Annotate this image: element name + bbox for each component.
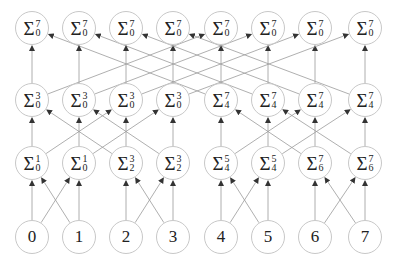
sum-range: 32	[177, 154, 182, 172]
sigma-icon: Σ	[306, 154, 317, 173]
range-lower: 0	[272, 28, 277, 37]
sigma-icon: Σ	[70, 91, 81, 110]
range-lower: 6	[319, 163, 324, 172]
sum-node: Σ74	[348, 83, 382, 117]
sum-range: 10	[83, 154, 88, 172]
sum-node: Σ70	[156, 11, 190, 45]
sum-range: 30	[177, 91, 182, 109]
sum-range: 10	[36, 154, 41, 172]
node-label: 7	[361, 227, 370, 247]
edge	[135, 178, 163, 222]
input-node: 5	[251, 220, 285, 254]
sum-node: Σ74	[251, 83, 285, 117]
sigma-icon: Σ	[117, 91, 128, 110]
range-lower: 0	[225, 28, 230, 37]
range-lower: 4	[272, 100, 277, 109]
edge	[136, 178, 164, 222]
sum-range: 32	[130, 154, 135, 172]
sum-range: 70	[369, 19, 374, 37]
sum-range: 74	[225, 91, 230, 109]
input-node: 3	[156, 220, 190, 254]
sum-range: 76	[319, 154, 324, 172]
sigma-icon: Σ	[212, 19, 223, 38]
sum-node: Σ32	[109, 146, 143, 180]
range-lower: 0	[177, 100, 182, 109]
range-lower: 6	[369, 163, 374, 172]
sigma-icon: Σ	[117, 19, 128, 38]
node-label: 4	[217, 227, 226, 247]
edge	[41, 178, 69, 222]
sigma-icon: Σ	[23, 154, 34, 173]
edge	[325, 178, 355, 223]
sum-node: Σ70	[62, 11, 96, 45]
sum-node: Σ10	[62, 146, 96, 180]
input-node: 4	[204, 220, 238, 254]
range-lower: 4	[225, 163, 230, 172]
range-lower: 4	[272, 163, 277, 172]
sum-range: 70	[177, 19, 182, 37]
sum-node: Σ30	[156, 83, 190, 117]
sum-range: 30	[130, 91, 135, 109]
sum-node: Σ70	[15, 11, 49, 45]
sum-range: 70	[272, 19, 277, 37]
sigma-icon: Σ	[212, 91, 223, 110]
sum-range: 70	[83, 19, 88, 37]
input-node: 6	[298, 220, 332, 254]
edge	[230, 178, 258, 222]
range-lower: 0	[319, 28, 324, 37]
edge	[231, 178, 259, 222]
edge	[42, 178, 70, 222]
sigma-icon: Σ	[259, 19, 270, 38]
sigma-icon: Σ	[70, 19, 81, 38]
node-label: 0	[28, 227, 37, 247]
range-lower: 0	[83, 28, 88, 37]
input-node: 2	[109, 220, 143, 254]
sum-node: Σ54	[204, 146, 238, 180]
range-lower: 0	[177, 28, 182, 37]
sigma-icon: Σ	[164, 91, 175, 110]
sum-node: Σ10	[15, 146, 49, 180]
sum-node: Σ32	[156, 146, 190, 180]
sum-range: 30	[83, 91, 88, 109]
input-node: 7	[348, 220, 382, 254]
sum-node: Σ76	[348, 146, 382, 180]
range-lower: 4	[319, 100, 324, 109]
sigma-icon: Σ	[23, 19, 34, 38]
range-lower: 0	[36, 100, 41, 109]
edge	[325, 178, 355, 223]
sigma-icon: Σ	[356, 154, 367, 173]
sigma-icon: Σ	[356, 19, 367, 38]
sum-node: Σ70	[251, 11, 285, 45]
sum-node: Σ70	[109, 11, 143, 45]
sigma-icon: Σ	[117, 154, 128, 173]
sum-node: Σ74	[204, 83, 238, 117]
range-lower: 0	[36, 163, 41, 172]
sum-range: 70	[36, 19, 41, 37]
sum-node: Σ74	[298, 83, 332, 117]
input-node: 0	[15, 220, 49, 254]
node-label: 6	[311, 227, 320, 247]
sigma-icon: Σ	[356, 91, 367, 110]
range-lower: 4	[225, 100, 230, 109]
sigma-icon: Σ	[306, 19, 317, 38]
sum-node: Σ30	[109, 83, 143, 117]
butterfly-diagram: Σ70Σ70Σ70Σ70Σ70Σ70Σ70Σ70Σ30Σ30Σ30Σ30Σ74Σ…	[0, 0, 396, 255]
range-lower: 0	[83, 163, 88, 172]
sum-range: 76	[369, 154, 374, 172]
range-lower: 0	[130, 100, 135, 109]
sum-range: 70	[225, 19, 230, 37]
range-lower: 0	[369, 28, 374, 37]
sum-node: Σ70	[348, 11, 382, 45]
sum-node: Σ54	[251, 146, 285, 180]
sigma-icon: Σ	[306, 91, 317, 110]
range-lower: 2	[130, 163, 135, 172]
input-node: 1	[62, 220, 96, 254]
sigma-icon: Σ	[259, 91, 270, 110]
sum-node: Σ70	[298, 11, 332, 45]
edges-layer	[0, 0, 396, 255]
range-lower: 2	[177, 163, 182, 172]
node-label: 3	[169, 227, 178, 247]
sigma-icon: Σ	[164, 19, 175, 38]
sigma-icon: Σ	[164, 154, 175, 173]
sigma-icon: Σ	[70, 154, 81, 173]
